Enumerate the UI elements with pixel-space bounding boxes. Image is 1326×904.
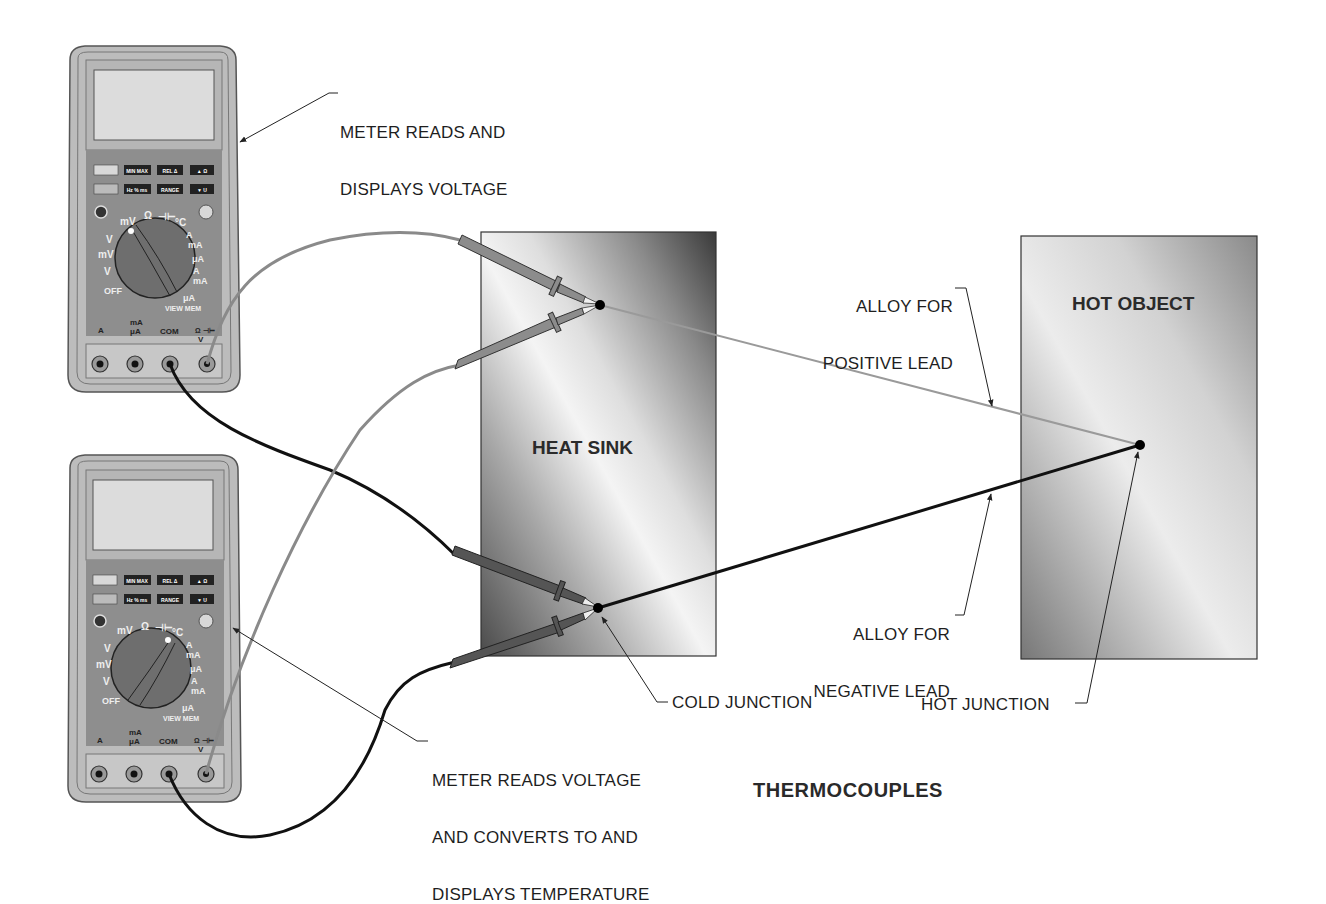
svg-text:V: V (103, 676, 110, 687)
leader-positive-lead (955, 288, 992, 406)
svg-text:Hz % ms: Hz % ms (127, 597, 148, 603)
svg-text:mA: mA (193, 276, 208, 286)
svg-text:MIN MAX: MIN MAX (126, 168, 148, 174)
svg-text:A: A (186, 230, 193, 240)
callout-line: DISPLAYS TEMPERATURE (432, 885, 650, 904)
leader-meter-top (240, 93, 338, 142)
callout-positive-lead: ALLOY FOR POSITIVE LEAD (800, 259, 953, 392)
svg-text:Ω ⊣⊢: Ω ⊣⊢ (195, 327, 215, 334)
callout-cold-junction: COLD JUNCTION (672, 693, 813, 712)
callout-line: POSITIVE LEAD (800, 354, 953, 373)
svg-text:mV: mV (120, 216, 136, 227)
upper-junction-dot (595, 300, 605, 310)
callout-line: METER READS AND (340, 123, 508, 142)
svg-text:°C: °C (172, 627, 183, 638)
svg-text:Ω: Ω (144, 210, 152, 221)
svg-text:A: A (98, 326, 104, 335)
hot-object-label: HOT OBJECT (1072, 293, 1194, 315)
top-meter-positive-cable (207, 232, 460, 364)
leader-negative-lead (955, 494, 991, 615)
hot-junction-dot (1135, 440, 1145, 450)
meter-top-dial (115, 218, 195, 298)
svg-text:μA: μA (190, 664, 203, 674)
svg-text:μA: μA (192, 254, 205, 264)
svg-text:V: V (198, 335, 204, 344)
svg-text:mA: mA (191, 686, 206, 696)
svg-text:mA: mA (130, 318, 143, 327)
svg-text:mA: mA (188, 240, 203, 250)
heat-sink-label: HEAT SINK (532, 437, 633, 459)
cold-junction-dot (593, 603, 603, 613)
svg-text:A: A (191, 676, 198, 686)
leader-meter-bottom (233, 628, 428, 741)
svg-text:▼ U: ▼ U (197, 597, 207, 603)
svg-text:V: V (106, 234, 113, 245)
callout-line: DISPLAYS VOLTAGE (340, 180, 508, 199)
svg-text:°C: °C (175, 217, 186, 228)
callout-meter-bottom: METER READS VOLTAGE AND CONVERTS TO AND … (432, 733, 650, 904)
svg-text:mA: mA (129, 728, 142, 737)
svg-text:mV: mV (98, 249, 114, 260)
svg-text:Hz % ms: Hz % ms (127, 187, 148, 193)
svg-text:V: V (104, 266, 111, 277)
svg-text:Ω: Ω (141, 621, 149, 632)
svg-text:RANGE: RANGE (161, 597, 180, 603)
svg-text:▲ Ω: ▲ Ω (197, 578, 207, 584)
callout-line: ALLOY FOR (800, 297, 953, 316)
svg-text:⊣⊢: ⊣⊢ (158, 211, 176, 222)
svg-text:REL Δ: REL Δ (163, 578, 178, 584)
svg-text:A: A (97, 736, 103, 745)
callout-hot-junction: HOT JUNCTION (921, 695, 1050, 714)
svg-text:OFF: OFF (102, 696, 120, 706)
svg-text:▲ Ω: ▲ Ω (197, 168, 207, 174)
svg-text:μA: μA (183, 293, 196, 303)
svg-text:A: A (186, 640, 193, 650)
callout-line: ALLOY FOR (780, 625, 950, 644)
svg-text:V: V (198, 745, 204, 754)
svg-text:Ω ⊣⊢: Ω ⊣⊢ (194, 737, 214, 744)
meter-bottom-screen (93, 480, 213, 550)
meter-top-screen (94, 70, 214, 140)
svg-text:VIEW MEM: VIEW MEM (165, 305, 201, 312)
svg-text:mV: mV (96, 659, 112, 670)
svg-text:▼ U: ▼ U (197, 187, 207, 193)
svg-text:A: A (193, 266, 200, 276)
svg-text:⊣⊢: ⊣⊢ (155, 622, 173, 633)
svg-text:REL Δ: REL Δ (163, 168, 178, 174)
svg-text:V: V (104, 643, 111, 654)
callout-line: METER READS VOLTAGE (432, 771, 650, 790)
svg-text:COM: COM (160, 327, 179, 336)
svg-text:mA: mA (186, 650, 201, 660)
svg-text:RANGE: RANGE (161, 187, 180, 193)
svg-text:VIEW MEM: VIEW MEM (163, 715, 199, 722)
svg-text:OFF: OFF (104, 286, 122, 296)
svg-text:MIN MAX: MIN MAX (126, 578, 148, 584)
svg-text:COM: COM (159, 737, 178, 746)
bottom-meter-positive-cable (206, 365, 460, 774)
callout-meter-top: METER READS AND DISPLAYS VOLTAGE (340, 85, 508, 218)
svg-text:mV: mV (117, 625, 133, 636)
multimeter-bottom: MIN MAX REL Δ ▲ Ω Hz % ms RANGE ▼ U mV V… (68, 455, 241, 802)
svg-text:μA: μA (130, 327, 141, 336)
svg-text:μA: μA (129, 737, 140, 746)
svg-text:μA: μA (182, 703, 195, 713)
callout-line: AND CONVERTS TO AND (432, 828, 650, 847)
figure-title: THERMOCOUPLES (753, 779, 943, 802)
